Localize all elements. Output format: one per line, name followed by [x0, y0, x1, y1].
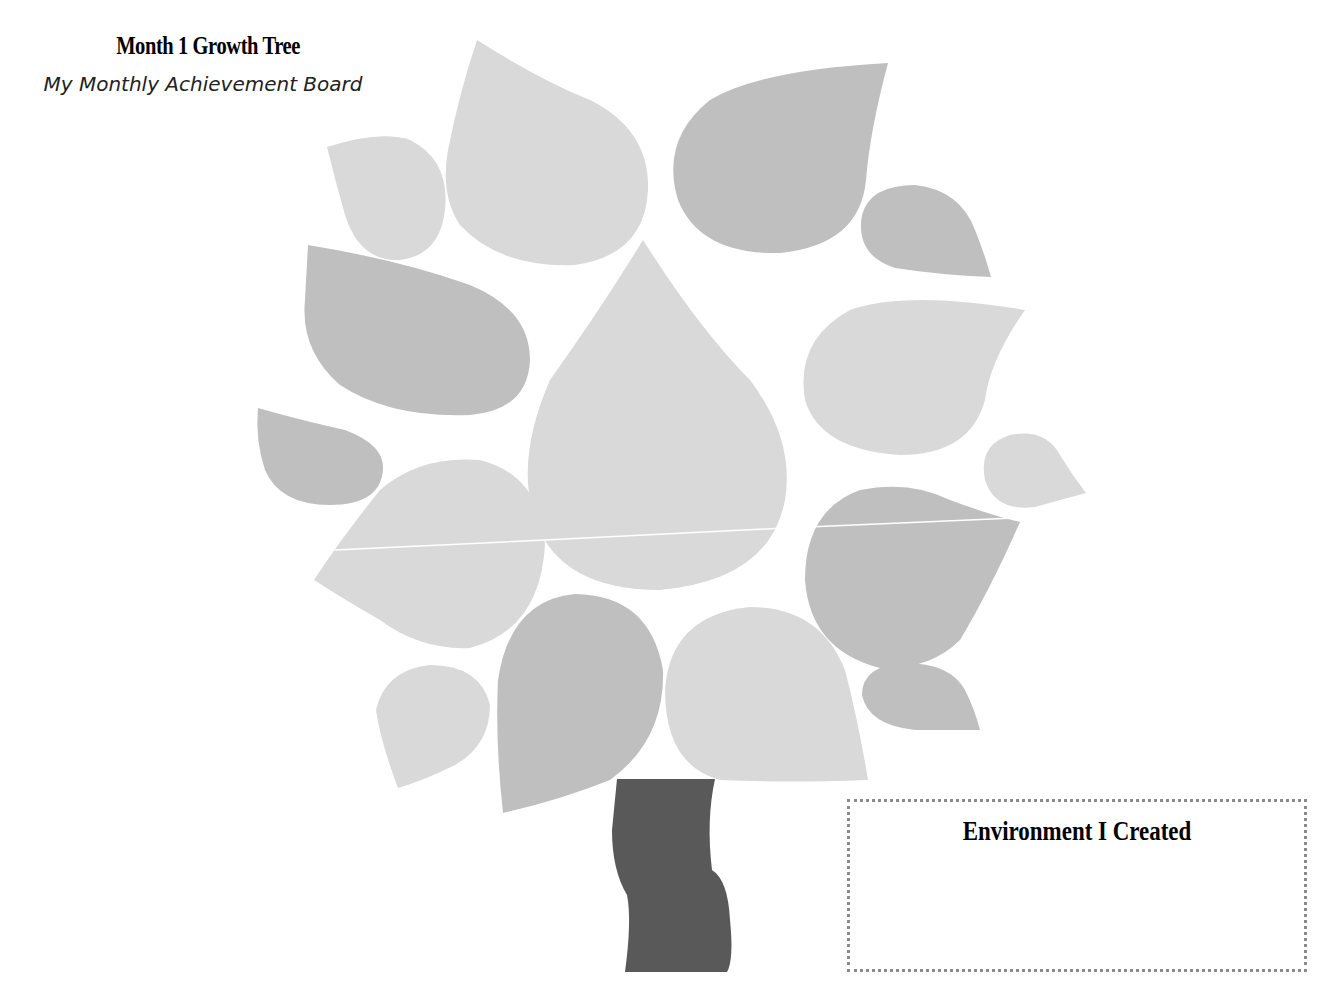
leaf-1[interactable]: [327, 136, 446, 260]
leaf-7[interactable]: [803, 300, 1025, 455]
leaf-9[interactable]: [984, 434, 1086, 508]
environment-box[interactable]: Environment I Created: [847, 799, 1307, 972]
leaf-8[interactable]: [257, 408, 383, 505]
leaf-4[interactable]: [861, 185, 991, 277]
leaf-5[interactable]: [304, 245, 530, 415]
leaf-6[interactable]: [528, 240, 787, 590]
leaf-3[interactable]: [673, 63, 888, 253]
leaf-15[interactable]: [862, 663, 980, 730]
environment-box-title: Environment I Created: [884, 816, 1270, 847]
tree-trunk: [612, 779, 731, 972]
leaf-2[interactable]: [446, 40, 648, 265]
leaf-11[interactable]: [805, 487, 1020, 668]
leaf-12[interactable]: [376, 665, 490, 788]
